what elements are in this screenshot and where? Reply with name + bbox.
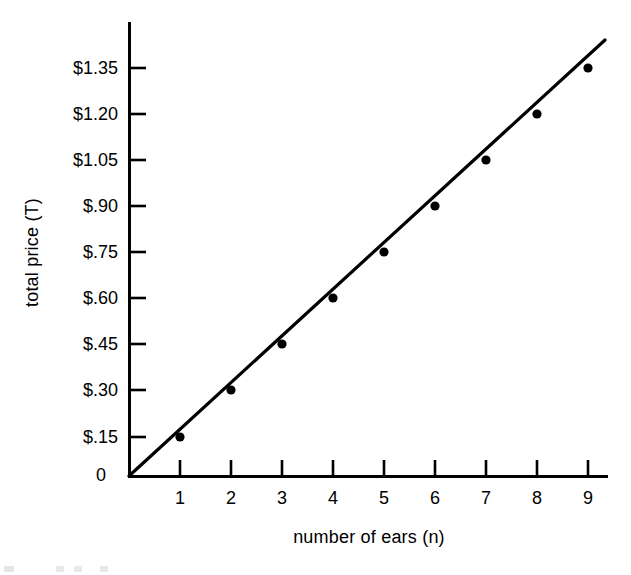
x-tick-label-6: 6: [415, 489, 455, 507]
x-tick-label-9: 9: [568, 489, 608, 507]
x-tick-label-4: 4: [313, 489, 353, 507]
x-axis-tick-labels: 1 2 3 4 5 6 7 8 9: [0, 0, 631, 575]
x-tick-label-8: 8: [517, 489, 557, 507]
x-tick-label-3: 3: [262, 489, 302, 507]
y-axis-title: total price (T): [22, 143, 43, 363]
x-tick-label-7: 7: [466, 489, 506, 507]
x-tick-label-2: 2: [211, 489, 251, 507]
x-tick-label-5: 5: [364, 489, 404, 507]
line-chart-figure: $1.35 $1.20 $1.05 $.90 $.75 $.60 $.45 $.…: [0, 0, 631, 575]
x-axis-title: number of ears (n): [129, 527, 609, 548]
scan-artifact: [4, 566, 124, 572]
x-tick-label-1: 1: [160, 489, 200, 507]
